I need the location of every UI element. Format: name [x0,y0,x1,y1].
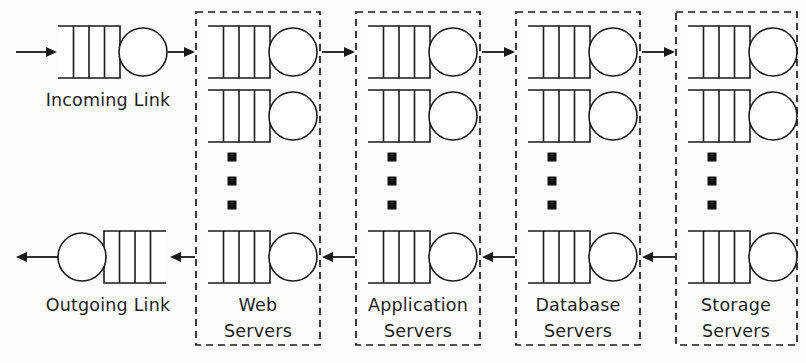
arrow-database-to-application [482,252,515,262]
arrow-database-to-storage-head [664,47,675,57]
arrow-database-to-storage [642,47,675,57]
database-servers-ellipsis-dot-2 [548,177,557,186]
storage-servers-ellipsis-dot-3 [708,201,717,210]
storage-servers-station-2 [688,90,797,142]
server-group-web-servers: WebServers [196,12,320,345]
arrow-incoming-to-web [168,47,195,57]
database-servers-ellipsis-dot-3 [548,201,557,210]
application-servers-station-1-queue [368,26,430,78]
outgoing-link-queue [104,231,166,283]
database-servers-station-3-server-circle [589,233,637,281]
queueing-network-diagram: WebServersApplicationServersDatabaseServ… [0,0,806,363]
storage-servers-ellipsis-dot-2 [708,177,717,186]
web-servers-station-1-queue [208,26,270,78]
arrow-database-to-application-head [482,252,493,262]
server-group-database-servers: DatabaseServers [516,12,640,345]
application-servers-ellipsis-dot-2 [388,177,397,186]
database-servers-station-1 [528,26,637,78]
storage-servers-station-3-server-circle [749,233,797,281]
application-servers-station-2-queue [368,90,430,142]
web-servers-station-2-server-circle [269,92,317,140]
web-servers-label-line1: Web [239,295,278,315]
web-servers-station-2-queue [208,90,270,142]
storage-servers-label-line1: Storage [701,295,771,315]
arrow-web-to-application [322,47,355,57]
arrow-external-to-incoming [16,47,57,57]
arrow-application-to-web [322,252,355,262]
web-servers-ellipsis-dot-2 [228,177,237,186]
storage-servers-label-line2: Servers [702,321,770,341]
database-servers-station-3-queue [528,231,590,283]
incoming-link-label: Incoming Link [46,90,171,110]
outgoing-link: Outgoing Link [46,231,171,315]
database-servers-station-1-server-circle [589,28,637,76]
database-servers-station-2 [528,90,637,142]
storage-servers-station-1-server-circle [749,28,797,76]
arrow-external-to-incoming-head [46,47,57,57]
incoming-link: Incoming Link [46,26,171,110]
database-servers-station-2-queue [528,90,590,142]
incoming-link-server-circle [119,28,167,76]
arrow-web-to-outgoing-head [170,252,181,262]
outgoing-link-label: Outgoing Link [46,295,171,315]
arrow-application-to-web-head [322,252,333,262]
web-servers-station-1-server-circle [269,28,317,76]
application-servers-label-line1: Application [368,295,468,315]
outgoing-link-server-circle [58,233,106,281]
server-group-storage-servers: StorageServers [676,12,797,345]
database-servers-station-3 [528,231,637,283]
storage-servers-station-2-queue [688,90,750,142]
storage-servers-ellipsis-dot-1 [708,153,717,162]
storage-servers-station-1-queue [688,26,750,78]
storage-servers-station-3 [688,231,797,283]
web-servers-ellipsis-dot-1 [228,153,237,162]
arrow-storage-to-database-head [642,252,653,262]
incoming-link-queue [58,26,120,78]
web-servers-vertical-ellipsis [228,153,237,210]
application-servers-station-3 [368,231,477,283]
diagram-canvas: WebServersApplicationServersDatabaseServ… [0,0,806,363]
web-servers-station-3-server-circle [269,233,317,281]
database-servers-station-1-queue [528,26,590,78]
storage-servers-station-2-server-circle [749,92,797,140]
database-servers-station-2-server-circle [589,92,637,140]
web-servers-station-3 [208,231,317,283]
application-servers-station-1-server-circle [429,28,477,76]
storage-servers-station-3-queue [688,231,750,283]
application-servers-ellipsis-dot-1 [388,153,397,162]
arrow-web-to-outgoing [170,252,195,262]
web-servers-station-3-queue [208,231,270,283]
application-servers-station-3-queue [368,231,430,283]
server-group-application-servers: ApplicationServers [356,12,480,345]
application-servers-station-3-server-circle [429,233,477,281]
arrow-application-to-database [482,47,515,57]
web-servers-station-2 [208,90,317,142]
application-servers-station-1 [368,26,477,78]
database-servers-label-line2: Servers [544,321,612,341]
storage-servers-vertical-ellipsis [708,153,717,210]
database-servers-label-line1: Database [535,295,620,315]
arrow-application-to-database-head [504,47,515,57]
arrow-incoming-to-web-head [184,47,195,57]
arrow-storage-to-database [642,252,675,262]
web-servers-label-line2: Servers [224,321,292,341]
storage-servers-station-1 [688,26,797,78]
application-servers-station-2-server-circle [429,92,477,140]
application-servers-station-2 [368,90,477,142]
web-servers-ellipsis-dot-3 [228,201,237,210]
database-servers-vertical-ellipsis [548,153,557,210]
web-servers-station-1 [208,26,317,78]
database-servers-ellipsis-dot-1 [548,153,557,162]
arrow-web-to-application-head [344,47,355,57]
application-servers-ellipsis-dot-3 [388,201,397,210]
application-servers-vertical-ellipsis [388,153,397,210]
arrow-outgoing-to-external-head [16,252,27,262]
arrow-outgoing-to-external [16,252,58,262]
application-servers-label-line2: Servers [384,321,452,341]
